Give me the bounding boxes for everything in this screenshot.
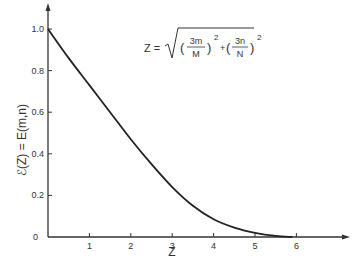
term2-denominator: N	[237, 49, 244, 59]
term1-denominator: M	[192, 49, 200, 59]
y-ticks: 00.20.40.60.81.0	[31, 24, 52, 242]
y-axis	[46, 3, 51, 237]
y-tick-label: 0.8	[31, 66, 44, 76]
y-axis-arrow-icon	[46, 3, 51, 11]
x-axis-label: Z	[168, 245, 175, 259]
formula-plus: +	[220, 43, 225, 53]
term1-exponent: 2	[214, 33, 219, 42]
term1-numerator: 3m	[190, 36, 203, 46]
term2-numerator: 3n	[235, 36, 245, 46]
svg-text:): )	[207, 40, 211, 55]
x-tick-label: 6	[294, 241, 299, 251]
y-tick-label: 0.4	[31, 149, 44, 159]
y-tick-label: 0	[33, 232, 38, 242]
y-axis-label: ℰ(Z) = E(m,n)	[15, 104, 29, 176]
x-axis-arrow-icon	[342, 235, 350, 240]
curve-e-of-z	[48, 29, 292, 237]
formula-lhs: Z =	[144, 42, 160, 54]
y-tick-label: 0.2	[31, 190, 44, 200]
x-tick-label: 4	[211, 241, 216, 251]
chart: 00.20.40.60.81.0 123456 Z ℰ(Z) = E(m,n) …	[0, 0, 359, 266]
svg-text:(: (	[180, 40, 185, 55]
svg-text:(: (	[226, 40, 231, 55]
x-tick-label: 2	[128, 241, 133, 251]
x-axis	[48, 235, 350, 240]
svg-text:): )	[250, 40, 254, 55]
x-tick-label: 1	[87, 241, 92, 251]
y-tick-label: 0.6	[31, 107, 44, 117]
term2-exponent: 2	[257, 33, 262, 42]
formula-annotation: Z = ( 3m M ) 2 + ( 3n N ) 2	[144, 28, 262, 59]
y-tick-label: 1.0	[31, 24, 44, 34]
x-tick-label: 5	[252, 241, 257, 251]
